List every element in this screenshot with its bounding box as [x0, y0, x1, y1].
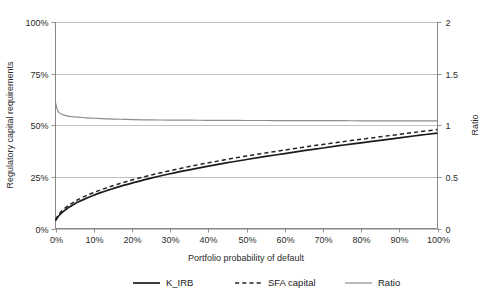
- x-axis: 0%10%20%30%40%50%60%70%80%90%100%: [50, 229, 450, 245]
- y-axis-left-tick-label: 0%: [35, 225, 48, 235]
- y-axis-right: 00.511.52: [438, 18, 459, 235]
- gridlines: [56, 23, 438, 230]
- y-axis-left-tick-label: 75%: [30, 70, 48, 80]
- line-chart: 0%25%50%75%100% 00.511.52 0%10%20%30%40%…: [0, 0, 489, 296]
- x-axis-tick-label: 70%: [314, 235, 332, 245]
- y-axis-right-tick-label: 1: [446, 121, 451, 131]
- x-axis-tick-label: 10%: [85, 235, 103, 245]
- series-line-ratio: [56, 103, 438, 121]
- y-axis-left-tick-label: 25%: [30, 173, 48, 183]
- series-line-k-irb: [56, 133, 438, 221]
- legend: K_IRBSFA capitalRatio: [133, 277, 400, 288]
- legend-label-k-irb: K_IRB: [166, 277, 193, 288]
- x-axis-tick-label: 20%: [123, 235, 141, 245]
- y-axis-left: 0%25%50%75%100%: [25, 18, 55, 235]
- legend-label-ratio: Ratio: [378, 277, 400, 288]
- x-axis-tick-label: 80%: [352, 235, 370, 245]
- x-axis-tick-label: 60%: [276, 235, 294, 245]
- y-axis-right-tick-label: 2: [446, 18, 451, 28]
- y-axis-right-tick-label: 0.5: [446, 173, 459, 183]
- y-axis-right-tick-label: 1.5: [446, 70, 459, 80]
- series-line-sfa-capital: [56, 130, 438, 220]
- chart-container: 0%25%50%75%100% 00.511.52 0%10%20%30%40%…: [0, 0, 489, 296]
- x-axis-tick-label: 40%: [199, 235, 217, 245]
- y-axis-left-tick-label: 50%: [30, 121, 48, 131]
- y-axis-right-title: Ratio: [470, 114, 480, 135]
- legend-label-sfa-capital: SFA capital: [268, 277, 316, 288]
- y-axis-left-title: Regulatory capital requirements: [5, 61, 15, 189]
- x-axis-tick-label: 0%: [50, 235, 63, 245]
- x-axis-tick-label: 30%: [161, 235, 179, 245]
- x-axis-tick-label: 100%: [427, 235, 450, 245]
- series-group: [56, 103, 438, 221]
- x-axis-title: Portfolio probability of default: [188, 253, 305, 263]
- x-axis-tick-label: 90%: [390, 235, 408, 245]
- y-axis-left-tick-label: 100%: [25, 18, 48, 28]
- x-axis-tick-label: 50%: [238, 235, 256, 245]
- y-axis-right-tick-label: 0: [446, 225, 451, 235]
